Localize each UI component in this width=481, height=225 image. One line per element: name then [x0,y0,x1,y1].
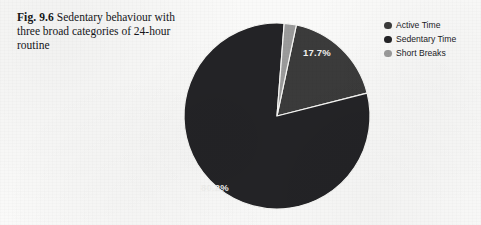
legend-item-label: Short Breaks [396,48,446,58]
pie-slice-label: 17.7% [303,47,331,58]
legend-swatch-icon [384,36,392,44]
legend-item-label: Active Time [396,20,440,30]
chart-legend: Active TimeSedentary TimeShort Breaks [384,19,456,61]
figure-caption: Fig. 9.6 Sedentary behaviour with three … [17,10,177,53]
figure-number: Fig. 9.6 [17,11,54,23]
legend-swatch-icon [384,50,392,58]
legend-item[interactable]: Short Breaks [384,47,456,60]
legend-item-label: Sedentary Time [396,34,456,44]
pie-slice-label: 80.2% [201,182,229,193]
legend-item[interactable]: Active Time [384,19,456,32]
legend-item[interactable]: Sedentary Time [384,33,456,46]
legend-swatch-icon [384,22,392,30]
figure-page: 17.7%80.2% Fig. 9.6 Sedentary behaviour … [0,0,481,225]
